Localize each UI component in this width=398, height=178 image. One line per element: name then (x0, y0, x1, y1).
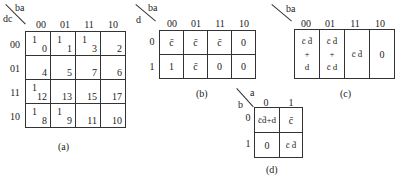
row-header: 1 (146, 62, 158, 72)
col-var-label: a (250, 88, 254, 98)
col-header: 00 (160, 19, 184, 29)
cell: 5 (51, 56, 76, 80)
row-header: 0 (146, 37, 158, 47)
caption: (a) (58, 141, 69, 152)
cell: 10 (26, 32, 51, 56)
cell: 0 (232, 31, 256, 55)
col-header: 11 (77, 20, 101, 30)
caption: (d) (266, 164, 278, 175)
row-header: 11 (6, 88, 24, 98)
cell: 10 (101, 104, 126, 128)
cell: 11 (51, 32, 76, 56)
cell: c̄ d̄ (280, 133, 303, 158)
col-header: 10 (101, 20, 125, 30)
cell: 4 (26, 56, 51, 80)
cell: 112 (26, 80, 51, 104)
cell: 15 (76, 80, 101, 104)
col-header: 00 (29, 20, 53, 30)
col-header: 11 (208, 19, 232, 29)
cell: 0 (232, 55, 256, 79)
row-var-label: d (136, 15, 141, 25)
col-var-label: ba (286, 4, 295, 14)
cell: 19 (51, 104, 76, 128)
col-var-label: ba (148, 3, 157, 13)
cell: 1 (160, 55, 184, 79)
cell: 18 (26, 104, 51, 128)
cell: 2 (101, 32, 126, 56)
col-header: 11 (343, 19, 367, 29)
col-var-label: ba (15, 3, 24, 13)
row-var-label: b (238, 100, 243, 110)
row-var-label: dc (3, 14, 12, 24)
row-header: 00 (6, 40, 24, 50)
col-header: 01 (53, 20, 77, 30)
cell: c̄ (208, 31, 232, 55)
row-header: 10 (6, 112, 24, 122)
cell: 13 (76, 32, 101, 56)
cell: 11 (76, 104, 101, 128)
cell: c̄ (184, 31, 208, 55)
caption: (b) (196, 88, 208, 99)
cell: 0 (255, 133, 280, 158)
cell: 0 (208, 55, 232, 79)
cell: 17 (101, 80, 126, 104)
cell: c̄ d̄+d (295, 30, 320, 79)
cell: 0 (370, 30, 395, 79)
cell: c̄ (184, 55, 208, 79)
col-header: 01 (184, 19, 208, 29)
col-header: 00 (294, 19, 318, 29)
row-header: 0 (242, 113, 254, 123)
row-header: 1 (242, 139, 254, 149)
caption: (c) (340, 88, 351, 99)
cell: 13 (51, 80, 76, 104)
cell: c̄d̄+d (255, 108, 280, 133)
col-header: 01 (318, 19, 342, 29)
cell: 6 (101, 56, 126, 80)
col-header: 10 (232, 19, 256, 29)
cell: c̄ (160, 31, 184, 55)
cell: c̄ d̄ (345, 30, 370, 79)
cell: c̄ (280, 108, 303, 133)
cell: 7 (76, 56, 101, 80)
col-header: 10 (368, 19, 392, 29)
row-header: 01 (6, 64, 24, 74)
cell: c̄ d̄+c̄ d (320, 30, 345, 79)
